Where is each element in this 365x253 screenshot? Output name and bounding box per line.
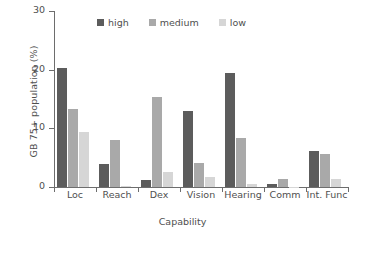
x-tick-1 [96, 187, 97, 192]
bar-dex-low [163, 172, 174, 187]
bar-loc-medium [68, 109, 79, 187]
bar-dex-medium [152, 97, 163, 187]
bar-dex-high [141, 180, 152, 187]
bar-loc-high [57, 68, 68, 187]
x-category-label-reach: Reach [102, 189, 131, 200]
bar-comm-medium [278, 179, 289, 187]
bar-reach-low [121, 186, 132, 187]
y-tick-label-10: 10 [33, 121, 45, 132]
bar-vision-medium [194, 163, 205, 187]
bar-int-func-low [331, 179, 342, 187]
bar-hearing-high [225, 73, 236, 187]
bar-vision-high [183, 111, 194, 187]
x-axis-line [54, 187, 348, 188]
bar-reach-high [99, 164, 110, 187]
y-tick-label-20: 20 [33, 63, 45, 74]
x-tick-5 [264, 187, 265, 192]
x-category-label-loc: Loc [67, 189, 83, 200]
y-tick-label-30: 30 [33, 4, 45, 15]
bars-layer [54, 11, 348, 187]
x-category-label-vision: Vision [187, 189, 215, 200]
bar-loc-low [79, 132, 90, 187]
bar-chart-figure: GB 75+ population (%) highmediumlow 0102… [0, 0, 365, 253]
bar-hearing-low [247, 184, 258, 187]
x-category-label-int-func: Int. Func [307, 189, 348, 200]
bar-hearing-medium [236, 138, 247, 187]
bar-reach-medium [110, 140, 121, 187]
y-axis-title: GB 75+ population (%) [28, 22, 39, 182]
x-tick-4 [222, 187, 223, 192]
x-tick-2 [138, 187, 139, 192]
x-axis-title: Capability [0, 216, 365, 227]
x-category-label-dex: Dex [150, 189, 169, 200]
x-category-label-comm: Comm [270, 189, 301, 200]
bar-comm-high [267, 184, 278, 187]
x-category-label-hearing: Hearing [224, 189, 261, 200]
y-tick-label-0: 0 [39, 180, 45, 191]
plot-area: 0102030 [54, 11, 348, 187]
x-tick-0 [54, 187, 55, 192]
x-tick-3 [180, 187, 181, 192]
bar-int-func-medium [320, 154, 331, 187]
x-tick-7 [348, 187, 349, 192]
bar-int-func-high [309, 151, 320, 187]
bar-vision-low [205, 177, 216, 187]
